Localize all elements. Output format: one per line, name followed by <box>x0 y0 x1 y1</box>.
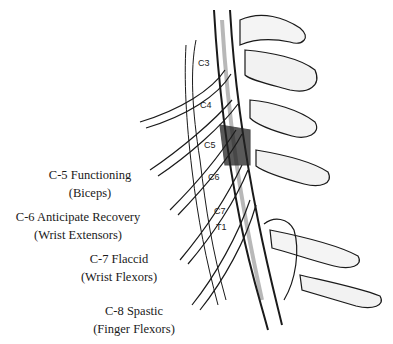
annotation-c7-muscle: (Wrist Flexors) <box>74 268 164 286</box>
annotation-c7: C-7 Flaccid (Wrist Flexors) <box>74 250 164 286</box>
vertebra-label-c6: C6 <box>208 172 220 182</box>
vertebra-label-c4: C4 <box>200 100 212 110</box>
annotation-c6-title: C-6 Anticipate Recovery <box>8 208 148 226</box>
annotation-c6: C-6 Anticipate Recovery (Wrist Extensors… <box>8 208 148 244</box>
annotation-c6-muscle: (Wrist Extensors) <box>8 226 148 244</box>
vertebra-label-c7: C7 <box>214 206 226 216</box>
vertebra-label-c5: C5 <box>204 140 216 150</box>
annotation-c8-title: C-8 Spastic <box>88 302 180 320</box>
annotation-c5-muscle: (Biceps) <box>30 184 150 202</box>
vertebra-label-t1: T1 <box>216 222 227 232</box>
annotation-c7-title: C-7 Flaccid <box>74 250 164 268</box>
vertebra-label-c3: C3 <box>198 58 210 68</box>
annotation-c5: C-5 Functioning (Biceps) <box>30 166 150 202</box>
annotation-c8: C-8 Spastic (Finger Flexors) <box>88 302 180 338</box>
annotation-c8-muscle: (Finger Flexors) <box>88 320 180 338</box>
annotation-c5-title: C-5 Functioning <box>30 166 150 184</box>
